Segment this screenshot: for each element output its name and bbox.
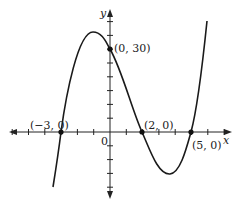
y-axis-up-arrow-icon [107,9,113,17]
y-axis-label: y [99,7,107,20]
y-axis-down-arrow-icon [107,191,113,199]
label-5-0: (5, 0) [192,139,222,152]
label-0-30: (0, 30) [114,42,151,55]
x-axis-left-arrow-icon [9,129,17,135]
point-0-30 [107,46,112,51]
label-neg3-0: (−3, 0) [30,119,69,132]
origin-label: 0 [101,135,108,148]
cubic-function-graph: (−3, 0) (0, 30) (2, 0) (5, 0) 0 x y [0,0,236,203]
point-5-0 [188,129,193,134]
x-axis-label: x [223,134,230,147]
label-2-0: (2, 0) [144,119,174,132]
